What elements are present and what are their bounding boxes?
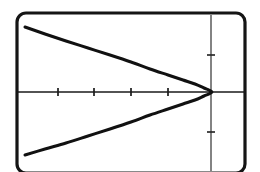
parabola-chart-svg	[0, 0, 260, 172]
figure-container	[0, 0, 260, 172]
chart-background	[0, 0, 260, 172]
